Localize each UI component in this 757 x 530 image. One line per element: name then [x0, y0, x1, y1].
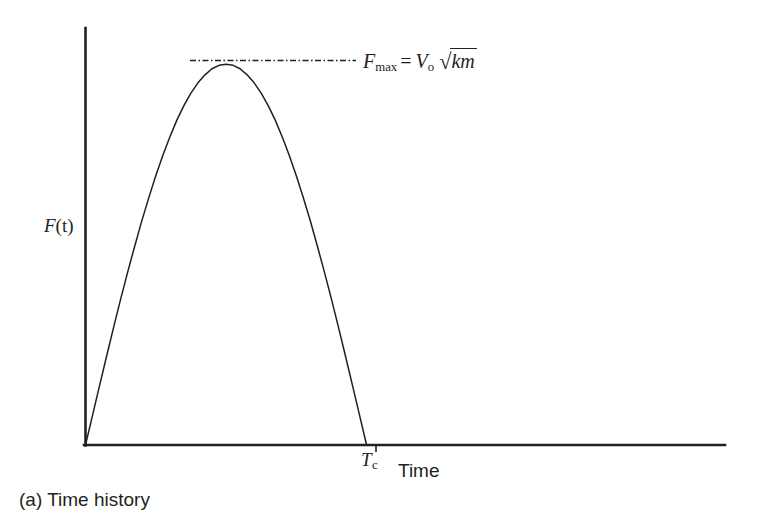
y-axis-label-argument: (t) [56, 215, 74, 236]
fmax-equation-annotation: Fmax=Vo√km [363, 50, 477, 74]
fmax-subscript: max [375, 60, 397, 74]
figure-caption: (a) Time history [19, 490, 150, 509]
radical-icon: √ [439, 49, 451, 74]
y-axis-label-variable: F [44, 215, 56, 236]
velocity-subscript: o [428, 60, 434, 74]
fmax-symbol: F [363, 50, 375, 72]
plot-canvas [0, 0, 757, 530]
x-axis-label: Time [398, 461, 440, 480]
equals-sign: = [400, 50, 411, 72]
velocity-symbol: V [416, 50, 428, 72]
y-axis-label: F(t) [44, 216, 74, 235]
x-axis-tick-label-tc: Tc [361, 450, 378, 472]
tc-symbol: T [361, 449, 372, 470]
radicand-km: km [450, 48, 476, 72]
time-history-figure: F(t) Tc Time Fmax=Vo√km (a) Time history [0, 0, 757, 530]
force-pulse-curve [86, 64, 367, 445]
tc-subscript: c [372, 457, 378, 472]
